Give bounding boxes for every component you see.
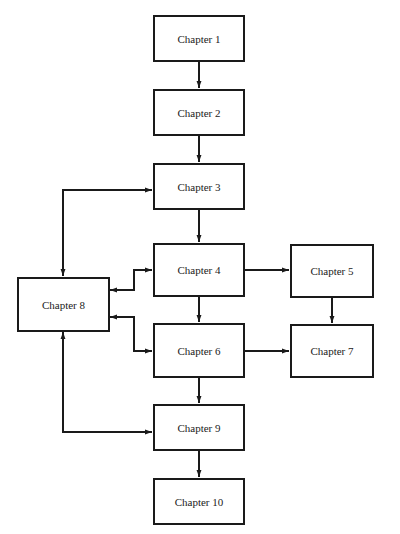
node-chapter-2: Chapter 2 (153, 89, 245, 136)
edge-ch8-ch6 (110, 317, 152, 351)
node-chapter-3: Chapter 3 (153, 163, 245, 210)
node-label: Chapter 6 (177, 345, 220, 357)
node-chapter-1: Chapter 1 (153, 15, 245, 62)
node-chapter-6: Chapter 6 (153, 323, 245, 378)
edge-ch8-ch4 (110, 270, 152, 290)
edge-ch8-ch3 (63, 190, 152, 276)
node-label: Chapter 4 (177, 264, 220, 276)
node-label: Chapter 8 (42, 299, 85, 311)
node-chapter-8: Chapter 8 (17, 277, 110, 332)
node-label: Chapter 3 (177, 181, 220, 193)
node-chapter-10: Chapter 10 (153, 478, 245, 525)
node-label: Chapter 2 (177, 107, 220, 119)
node-chapter-7: Chapter 7 (290, 324, 374, 378)
node-chapter-5: Chapter 5 (290, 244, 374, 298)
node-label: Chapter 7 (310, 345, 353, 357)
node-chapter-4: Chapter 4 (153, 243, 245, 297)
node-label: Chapter 5 (310, 265, 353, 277)
node-chapter-9: Chapter 9 (153, 404, 245, 451)
edge-ch8-ch9 (63, 332, 152, 432)
node-label: Chapter 9 (177, 422, 220, 434)
node-label: Chapter 1 (177, 33, 220, 45)
node-label: Chapter 10 (175, 496, 224, 508)
